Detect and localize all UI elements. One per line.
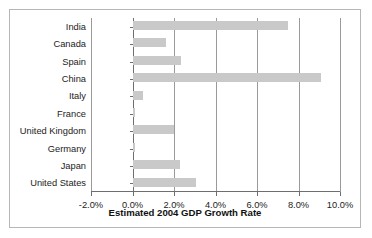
category-axis-tick	[130, 44, 133, 45]
category-axis-tick	[130, 183, 133, 184]
category-axis-tick	[130, 27, 133, 28]
category-axis-tick	[130, 79, 133, 80]
category-axis-tick	[130, 62, 133, 63]
category-axis-tick	[130, 114, 133, 115]
category-axis-tick	[130, 166, 133, 167]
category-axis-tick	[130, 149, 133, 150]
category-axis-tick	[130, 96, 133, 97]
x-axis-tick-labels: -2.0%0.0%2.0%4.0%6.0%8.0%10.0%	[10, 10, 360, 227]
category-axis-tick	[130, 131, 133, 132]
x-axis-title: Estimated 2004 GDP Growth Rate	[10, 207, 360, 218]
chart-figure: IndiaCanadaSpainChinaItalyFranceUnited K…	[9, 9, 361, 228]
